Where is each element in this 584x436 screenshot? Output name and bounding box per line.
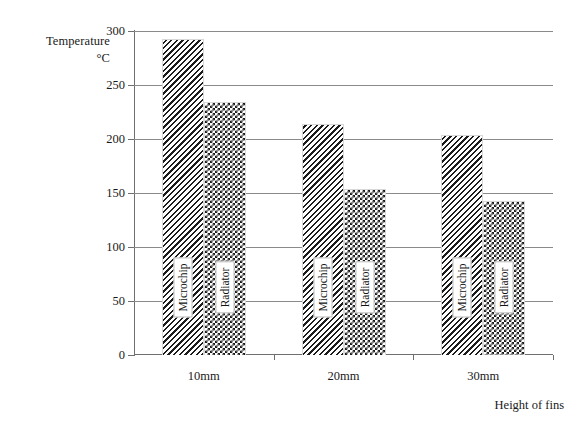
bar-series-label: Radiator <box>355 262 374 314</box>
y-axis-tick-label: 200 <box>106 132 125 147</box>
y-axis-title-line2: °C <box>18 50 110 67</box>
gridline <box>134 31 553 32</box>
x-axis-title: Height of fins <box>495 398 564 413</box>
bar-series-label: Microchip <box>313 258 332 318</box>
y-axis-title: Temperature °C <box>18 33 110 67</box>
bar: Microchip <box>441 135 483 355</box>
y-axis-tick-label: 0 <box>119 348 125 363</box>
y-axis-tick-mark <box>128 31 134 32</box>
bar-series-label: Microchip <box>173 258 192 318</box>
y-axis-tick-mark <box>128 247 134 248</box>
y-axis-tick-label: 50 <box>113 294 126 309</box>
bar-chart: Temperature °C 050100150200250300 Microc… <box>0 0 584 436</box>
bar: Radiator <box>204 102 246 355</box>
bar-series-label: Radiator <box>215 262 234 314</box>
x-axis-category-label: 30mm <box>467 369 499 384</box>
y-axis-tick-label: 250 <box>106 78 125 93</box>
plot-area: 050100150200250300 MicrochipRadiatorMicr… <box>134 31 553 355</box>
bar: Radiator <box>483 201 525 355</box>
x-axis-tick-mark <box>274 355 275 360</box>
y-axis-tick-label: 300 <box>106 24 125 39</box>
y-axis-tick-mark <box>128 355 134 356</box>
y-axis-tick-mark <box>128 85 134 86</box>
bar: Microchip <box>302 124 344 355</box>
y-axis-tick-label: 100 <box>106 240 125 255</box>
y-axis-tick-mark <box>128 301 134 302</box>
y-axis-title-line1: Temperature <box>46 34 110 48</box>
bar: Radiator <box>344 189 386 355</box>
y-axis-tick-mark <box>128 193 134 194</box>
y-axis-tick-mark <box>128 139 134 140</box>
x-axis-tick-mark <box>553 355 554 360</box>
x-axis-category-label: 10mm <box>188 369 220 384</box>
x-axis-tick-mark <box>413 355 414 360</box>
x-axis-category-label: 20mm <box>328 369 360 384</box>
y-axis-tick-label: 150 <box>106 186 125 201</box>
bar: Microchip <box>162 39 204 355</box>
bar-series-label: Radiator <box>495 262 514 314</box>
bar-series-label: Microchip <box>453 258 472 318</box>
